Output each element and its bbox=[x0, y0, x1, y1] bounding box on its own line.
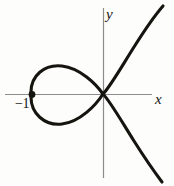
curve-figure: y x −1 bbox=[0, 0, 174, 186]
plot-canvas bbox=[0, 0, 174, 186]
x-intercept-label: −1 bbox=[15, 97, 29, 111]
x-axis-label: x bbox=[155, 92, 162, 107]
y-axis-label: y bbox=[106, 7, 113, 22]
curve-lower-branch bbox=[103, 94, 162, 182]
x-intercept-dot-icon bbox=[29, 91, 36, 98]
